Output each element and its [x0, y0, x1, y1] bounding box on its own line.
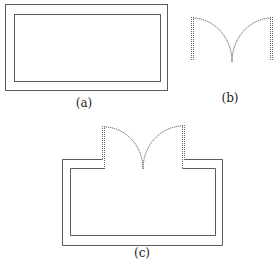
panel-a-room — [6, 5, 168, 91]
panel-a-label: (a) — [76, 96, 93, 110]
panel-c-label: (c) — [134, 246, 150, 260]
panel-a-inner-wall — [15, 15, 161, 82]
panel-c-left-swing-arc — [104, 127, 143, 169]
panel-a-outer-wall — [6, 5, 168, 91]
panel-c-inner-wall — [71, 169, 216, 236]
panel-b-label: (b) — [221, 91, 238, 105]
panel-b-left-swing-arc — [193, 18, 232, 62]
diagram-canvas — [0, 0, 279, 261]
panel-b-door — [192, 17, 273, 62]
panel-b-right-swing-arc — [232, 18, 271, 62]
panel-c-right-swing-arc — [143, 126, 183, 169]
panel-c-outer-wall — [63, 160, 223, 246]
panel-c-room-with-door — [63, 125, 223, 246]
